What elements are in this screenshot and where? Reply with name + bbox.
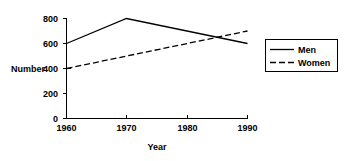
x-axis-title: Year [147,142,167,152]
legend-label-women: Women [298,58,330,68]
y-tick-label-600: 600 [43,39,58,49]
x-tick-label-1980: 1980 [177,123,197,133]
legend-label-men: Men [298,45,316,55]
y-tick-label-800: 800 [43,14,58,24]
y-tick-label-0: 0 [53,114,58,124]
x-tick-label-1990: 1990 [237,123,257,133]
y-tick-label-200: 200 [43,89,58,99]
chart-background [0,0,346,161]
chart-canvas: 800 600 400 200 0 Number 1960 1970 1980 … [0,0,346,161]
y-axis-title: Number [11,64,46,74]
line-chart: 800 600 400 200 0 Number 1960 1970 1980 … [0,0,346,161]
x-tick-label-1970: 1970 [116,123,136,133]
y-tick-label-400: 400 [43,64,58,74]
x-tick-label-1960: 1960 [56,123,76,133]
